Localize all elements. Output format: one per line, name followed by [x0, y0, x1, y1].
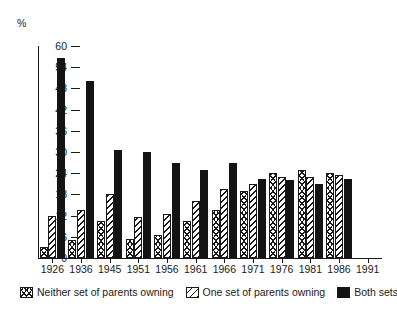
bar-1966-series-0 [212, 210, 220, 258]
x-axis-tick-label-1951: 1951 [127, 264, 150, 275]
bar-1981-series-0 [298, 170, 306, 258]
legend-swatch-neither-icon [20, 287, 33, 298]
bar-1981-series-1 [306, 177, 314, 258]
bar-1961-series-2 [200, 170, 208, 258]
x-axis-tick-label-1926: 1926 [41, 264, 64, 275]
bar-1945-series-0 [97, 221, 105, 258]
bar-1926-series-1 [48, 216, 56, 258]
bar-1926-series-0 [40, 247, 48, 258]
bar-1986-series-0 [326, 173, 334, 258]
bar-1966-series-1 [220, 189, 228, 258]
legend-item-neither: Neither set of parents owning [20, 287, 174, 298]
legend-label: Neither set of parents owning [37, 287, 174, 298]
bar-1966-series-2 [229, 163, 237, 258]
legend-label: Both sets of parents owning [354, 287, 397, 298]
bar-1956-series-1 [163, 214, 171, 258]
bar-1981-series-2 [315, 184, 323, 258]
bar-1971-series-0 [240, 191, 248, 258]
bar-1951-series-1 [134, 217, 142, 258]
bar-1976-series-1 [278, 177, 286, 258]
x-axis-tick-label-1961: 1961 [184, 264, 207, 275]
bar-1926-series-2 [57, 58, 65, 258]
bar-1961-series-1 [192, 201, 200, 258]
bar-1971-series-1 [249, 184, 257, 258]
bar-1936-series-1 [77, 210, 85, 258]
bar-1976-series-0 [269, 173, 277, 258]
x-axis-tick-label-1956: 1956 [155, 264, 178, 275]
bar-1986-series-2 [344, 179, 352, 259]
legend-label: One set of parents owning [203, 287, 326, 298]
x-axis-tick-label-1991: 1991 [356, 264, 379, 275]
x-axis-tick-label-1966: 1966 [213, 264, 236, 275]
x-axis-tick-label-1986: 1986 [327, 264, 350, 275]
bar-1936-series-2 [86, 81, 94, 258]
bar-1986-series-1 [335, 175, 343, 258]
bar-1976-series-2 [286, 180, 294, 258]
legend-swatch-one-icon [186, 287, 199, 298]
bar-chart: % 06121824303642485460 19261936194519511… [0, 0, 397, 320]
bar-1936-series-0 [68, 240, 76, 258]
legend-item-one: One set of parents owning [186, 287, 326, 298]
bar-1961-series-0 [183, 221, 191, 258]
bar-1956-series-2 [172, 163, 180, 258]
bar-1945-series-1 [106, 194, 114, 258]
x-axis-tick-label-1945: 1945 [98, 264, 121, 275]
x-axis-tick-label-1981: 1981 [299, 264, 322, 275]
plot-area [38, 46, 382, 258]
bar-1951-series-0 [126, 239, 134, 258]
bar-1951-series-2 [143, 152, 151, 258]
x-axis-tick-label-1976: 1976 [270, 264, 293, 275]
bar-1945-series-2 [114, 150, 122, 258]
bar-1956-series-0 [154, 235, 162, 258]
bar-1971-series-2 [258, 179, 266, 259]
chart-legend: Neither set of parents owningOne set of … [20, 287, 397, 298]
x-axis-tick-label-1936: 1936 [69, 264, 92, 275]
x-axis-tick-label-1971: 1971 [241, 264, 264, 275]
legend-item-both: Both sets of parents owning [337, 287, 397, 298]
legend-swatch-both-icon [337, 287, 350, 298]
